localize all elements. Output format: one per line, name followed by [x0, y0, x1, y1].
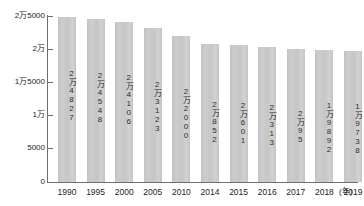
x-axis-tick-label: 1990	[53, 187, 81, 197]
y-axis-tick-label: 2万	[33, 45, 45, 53]
chart-title	[0, 0, 364, 2]
y-axis-tick-label: 0	[41, 178, 45, 186]
bar[interactable]: 2万4106	[115, 22, 133, 182]
bar-value-label: 2万852	[201, 47, 219, 197]
bar[interactable]: 2万601	[230, 45, 248, 182]
x-axis-tick-label: 2016	[253, 187, 281, 197]
y-axis-tick-label: 5000	[27, 144, 45, 152]
bar-chart: 050001万1万50002万2万5000 2万48272万45482万4106…	[0, 0, 364, 206]
y-axis-tick-label: 1万	[33, 111, 45, 119]
bar-value-label: 1万9892	[315, 53, 333, 203]
bar-value-label: 2万3123	[144, 31, 162, 181]
bar[interactable]: 1万9892	[315, 50, 333, 182]
bar[interactable]: 2万4548	[87, 19, 105, 182]
bar-value-label: 2万2000	[172, 39, 190, 189]
bar[interactable]: 1万9738	[344, 51, 362, 182]
x-axis-unit-label: (年)	[339, 187, 352, 197]
y-axis-tick-label: 2万5000	[15, 12, 45, 20]
bar[interactable]: 2万313	[258, 47, 276, 182]
x-axis-tick-label: 1995	[82, 187, 110, 197]
bar-value-label: 1万9738	[344, 54, 362, 204]
x-axis-tick-label: 2017	[282, 187, 310, 197]
bar[interactable]: 2万852	[201, 44, 219, 182]
bar[interactable]: 2万2000	[172, 36, 190, 182]
x-axis-tick-label: 2014	[196, 187, 224, 197]
x-axis-tick-label: 2018	[310, 187, 338, 197]
bar-value-label: 2万4548	[87, 22, 105, 172]
bar-value-label: 2万95	[287, 52, 305, 202]
x-axis-tick-label: 2000	[110, 187, 138, 197]
bar[interactable]: 2万3123	[144, 28, 162, 182]
plot-area: 2万48272万45482万41062万31232万20002万8522万601…	[48, 16, 358, 182]
bar-value-label: 2万4827	[58, 20, 76, 170]
bar[interactable]: 2万95	[287, 49, 305, 182]
bar-value-label: 2万313	[258, 50, 276, 200]
x-axis-tick-label: 2005	[139, 187, 167, 197]
bar[interactable]: 2万4827	[58, 17, 76, 182]
x-axis-tick-label: 2010	[167, 187, 195, 197]
y-axis-tick-label: 1万5000	[15, 78, 45, 86]
bar-value-label: 2万4106	[115, 25, 133, 175]
bar-value-label: 2万601	[230, 48, 248, 198]
x-axis-tick-label: 2015	[225, 187, 253, 197]
